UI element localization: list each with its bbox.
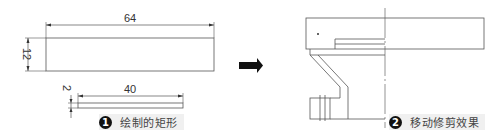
step2-badge: 2	[389, 116, 402, 129]
step1-badge: 1	[99, 116, 112, 129]
step1-caption: 1 绘制的矩形	[99, 114, 184, 130]
trim-result-drawing	[306, 8, 484, 128]
large-rectangle-group: 64 12	[21, 12, 214, 71]
small-rectangle	[78, 103, 183, 108]
step2-caption-text: 移动修剪效果	[410, 114, 479, 130]
step2-caption: 2 移动修剪效果	[389, 114, 485, 130]
small-height-label: 2	[61, 85, 73, 91]
step1-caption-text: 绘制的矩形	[120, 114, 178, 130]
small-rectangle-group: 40 2	[61, 83, 183, 118]
small-width-label: 40	[124, 83, 136, 95]
right-arrow-icon	[239, 58, 263, 73]
large-width-label: 64	[124, 12, 136, 24]
large-rectangle	[46, 38, 214, 71]
large-height-label: 12	[21, 48, 33, 60]
